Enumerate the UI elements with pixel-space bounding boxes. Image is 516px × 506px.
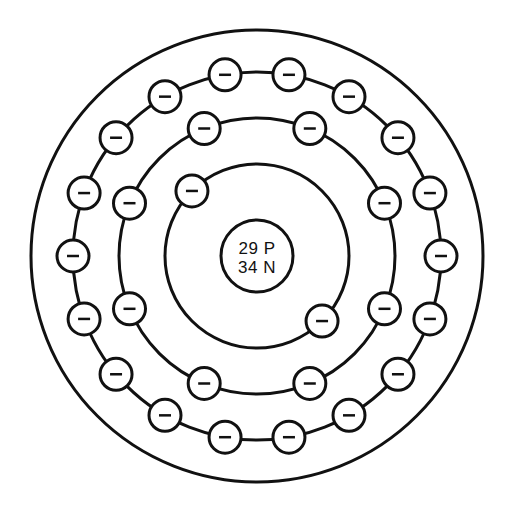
electron-shell-2-7 (114, 293, 146, 325)
electron-shell-3-13 (100, 358, 132, 390)
electron-shell-2-1 (188, 113, 220, 145)
electron-shell-2-2 (294, 113, 326, 145)
electron-shell-3-10 (273, 421, 305, 453)
atom-diagram-canvas: 29 P 34 N (0, 0, 516, 506)
electron-shell-3-4 (382, 122, 414, 154)
electron-shell-3-14 (68, 303, 100, 335)
electron-shell-3-5 (414, 177, 446, 209)
nucleus-group: 29 P 34 N (221, 220, 293, 292)
electron-shell-1-1 (176, 175, 208, 207)
electron-shell-3-1 (209, 59, 241, 91)
nucleus-proton-label: 29 P (239, 239, 276, 258)
electron-shell-1-2 (306, 305, 338, 337)
electron-shell-2-8 (114, 187, 146, 219)
electron-shell-3-12 (149, 399, 181, 431)
electron-shell-3-3 (333, 81, 365, 113)
electron-shell-3-11 (209, 421, 241, 453)
electron-shell-3-8 (382, 358, 414, 390)
electron-shell-3-18 (149, 81, 181, 113)
electron-shell-3-6 (425, 240, 457, 272)
bohr-model-diagram: 29 P 34 N (0, 0, 516, 506)
electron-shell-3-2 (273, 59, 305, 91)
electron-shell-3-15 (57, 240, 89, 272)
electron-shell-2-5 (294, 367, 326, 399)
electron-shell-3-7 (414, 303, 446, 335)
electron-shell-3-17 (100, 122, 132, 154)
electron-shell-3-9 (333, 399, 365, 431)
electron-shell-2-6 (188, 367, 220, 399)
nucleus-neutron-label: 34 N (238, 258, 276, 277)
electron-shell-2-3 (368, 187, 400, 219)
electron-shell-3-16 (68, 177, 100, 209)
electron-shell-2-4 (368, 293, 400, 325)
